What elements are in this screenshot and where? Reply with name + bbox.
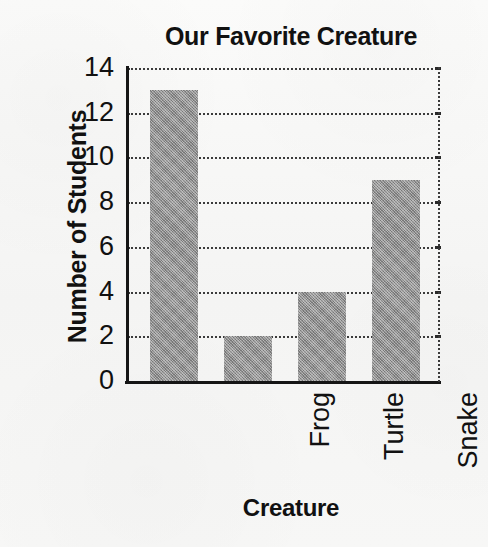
x-tick-label: Snake	[455, 392, 482, 512]
chart-title: Our Favorite Creature	[126, 24, 456, 49]
y-tick-label: 14	[54, 54, 114, 81]
plot-right-border	[438, 67, 440, 382]
y-tick-label: 6	[54, 233, 114, 260]
y-tick-label: 4	[54, 278, 114, 305]
gridline	[128, 68, 440, 70]
bar-chart: Our Favorite Creature Number of Students…	[0, 0, 488, 547]
y-tick-label: 8	[54, 188, 114, 215]
y-tick-label: 2	[54, 322, 114, 349]
bar	[372, 180, 420, 381]
y-tick-label: 12	[54, 99, 114, 126]
bar	[298, 292, 346, 381]
y-tick-label: 0	[54, 367, 114, 394]
y-tick-label: 10	[54, 143, 114, 170]
x-axis-line	[125, 381, 441, 384]
bar	[224, 336, 272, 381]
x-tick-label: Frog	[307, 392, 334, 512]
plot-area	[126, 68, 440, 381]
x-tick-label: Turtle	[381, 392, 408, 512]
bar	[150, 90, 198, 381]
y-axis-line	[126, 66, 129, 383]
